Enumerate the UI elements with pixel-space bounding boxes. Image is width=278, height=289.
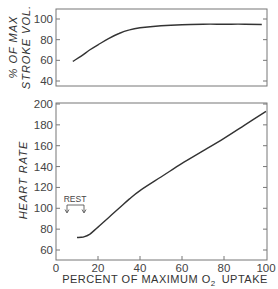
y-tick-label: 100 bbox=[34, 202, 53, 214]
y-tick-label: 120 bbox=[34, 181, 53, 193]
rest-arrow-left-icon bbox=[65, 209, 69, 213]
bottom-panel-frame bbox=[56, 103, 267, 260]
y-tick-label: 180 bbox=[34, 119, 53, 131]
rest-arrow-right-icon bbox=[82, 209, 86, 213]
x-axis-ticks: 020406080100 bbox=[53, 256, 276, 274]
stroke-volume-curve bbox=[73, 24, 262, 61]
heart-rate-curve bbox=[77, 111, 266, 237]
top-panel-frame bbox=[56, 9, 267, 86]
y-tick-label: 100 bbox=[34, 13, 53, 25]
y-tick-label: 140 bbox=[34, 161, 53, 173]
x-tick-label: 0 bbox=[53, 262, 59, 274]
y-tick-label: 200 bbox=[34, 98, 53, 110]
y-tick-label: 80 bbox=[40, 223, 53, 235]
y-tick-label: 40 bbox=[40, 75, 53, 87]
y-tick-label: 60 bbox=[40, 54, 53, 66]
y-tick-label: 80 bbox=[40, 34, 53, 46]
rest-annotation: REST bbox=[64, 194, 87, 213]
chart-figure: 406080100 6080100120140160180200 0204060… bbox=[0, 0, 278, 289]
y-tick-label: 160 bbox=[34, 140, 53, 152]
bottom-y-ticks: 6080100120140160180200 bbox=[34, 98, 267, 256]
rest-bracket bbox=[67, 205, 84, 209]
x-axis-title: PERCENT OF MAXIMUM O2UPTAKE bbox=[62, 273, 268, 288]
y-tick-label: 60 bbox=[40, 244, 53, 256]
bottom-y-axis-title: HEART RATE bbox=[17, 141, 29, 220]
rest-label: REST bbox=[64, 194, 87, 204]
top-y-axis-title-line2: STROKE VOL. bbox=[20, 5, 32, 89]
top-y-axis-title-line1: % OF MAX bbox=[7, 16, 19, 79]
